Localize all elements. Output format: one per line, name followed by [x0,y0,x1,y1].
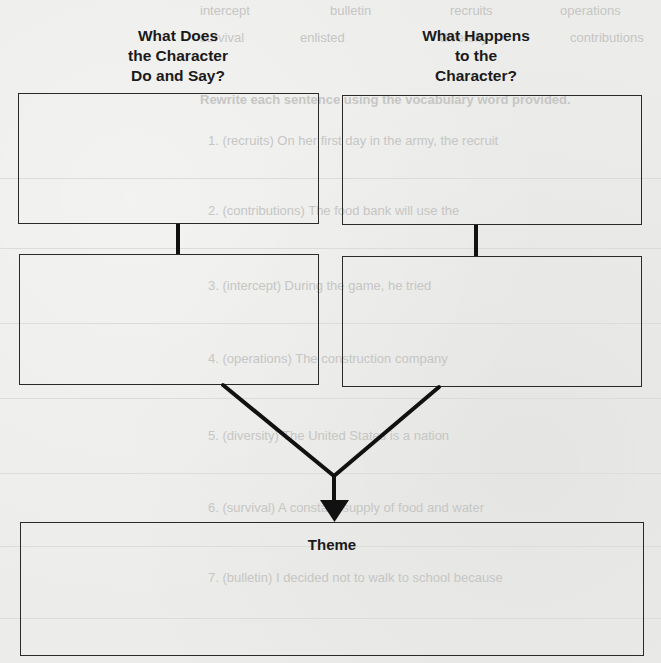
left-v-arm [223,385,334,476]
right-v-arm [334,387,439,476]
connector-layer [0,0,661,663]
down-arrowhead-icon [320,500,349,522]
